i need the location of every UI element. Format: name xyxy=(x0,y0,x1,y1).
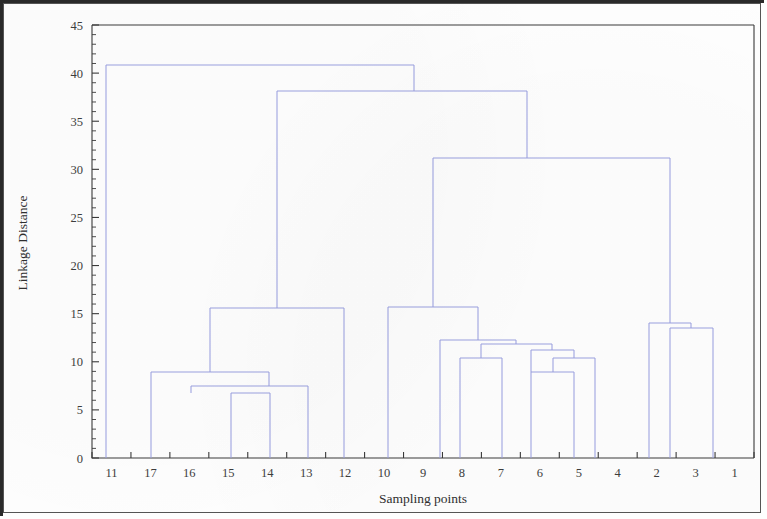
x-tick-label: 9 xyxy=(420,466,426,480)
y-tick-label: 25 xyxy=(71,211,84,225)
y-tick-label: 45 xyxy=(71,19,84,33)
x-tick-label: 3 xyxy=(692,466,698,480)
y-tick-label: 15 xyxy=(71,307,84,321)
x-tick-label: 5 xyxy=(576,466,582,480)
y-tick-label: 10 xyxy=(71,355,84,369)
plot-background xyxy=(3,3,767,519)
y-tick-label: 35 xyxy=(71,115,84,129)
y-tick-label: 40 xyxy=(71,67,84,81)
x-tick-label: 8 xyxy=(459,466,465,480)
y-axis-title: Linkage Distance xyxy=(15,196,30,291)
x-tick-label: 13 xyxy=(300,466,313,480)
x-tick-label: 15 xyxy=(222,466,235,480)
y-tick-label: 0 xyxy=(77,452,83,466)
x-tick-label: 10 xyxy=(378,466,391,480)
x-tick-label: 11 xyxy=(105,466,117,480)
x-tick-label: 2 xyxy=(654,466,660,480)
x-tick-label: 16 xyxy=(183,466,196,480)
x-tick-label: 12 xyxy=(339,466,352,480)
x-tick-label: 7 xyxy=(498,466,504,480)
x-tick-label: 17 xyxy=(144,466,157,480)
x-tick-label: 4 xyxy=(615,466,622,480)
y-tick-label: 20 xyxy=(71,259,84,273)
x-tick-label: 6 xyxy=(537,466,543,480)
x-axis-title: Sampling points xyxy=(379,491,467,506)
x-tick-label: 14 xyxy=(261,466,274,480)
dendrogram-plot: 051015202530354045 111716151413121098765… xyxy=(3,3,767,519)
y-tick-label: 30 xyxy=(71,163,84,177)
x-tick-label: 1 xyxy=(731,466,737,480)
y-tick-label: 5 xyxy=(77,403,83,417)
